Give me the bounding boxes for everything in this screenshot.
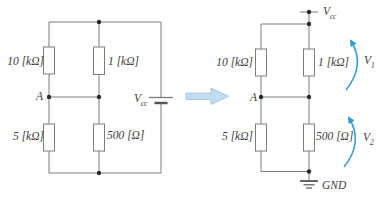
resistor-body <box>44 47 55 74</box>
resistor-body <box>94 47 105 75</box>
left-r-bottom-left-label: 5 [kΩ] <box>13 130 44 143</box>
left-vcc-label: Vcc <box>134 92 147 107</box>
gnd-label: GND <box>322 179 346 192</box>
v2-main: V <box>363 131 370 143</box>
ground-icon <box>300 181 318 188</box>
resistor-body <box>304 124 315 151</box>
left-r-bottom-mid-label: 500 [Ω] <box>107 129 144 142</box>
right-r-top-left-label: 10 [kΩ] <box>216 56 253 69</box>
v2-sub: 2 <box>370 138 373 147</box>
left-r-top-mid-label: 1 [kΩ] <box>108 55 139 68</box>
circuit-figure: 10 [kΩ] 1 [kΩ] 5 [kΩ] 500 [Ω] A Vcc 10 [… <box>0 0 380 200</box>
right-vcc-main: V <box>323 5 330 17</box>
right-circuit-diagram <box>256 10 358 188</box>
v2-label: V2 <box>363 131 373 146</box>
resistor-body <box>256 49 267 76</box>
right-node-a-label: A <box>250 91 257 104</box>
resistor-body <box>44 124 55 151</box>
resistor-body <box>256 124 267 151</box>
left-vcc-main: V <box>134 92 141 104</box>
v1-main: V <box>364 54 371 66</box>
left-node-a-label: A <box>36 90 43 103</box>
left-r-top-left-label: 10 [kΩ] <box>7 55 44 68</box>
right-r-top-right-label: 1 [kΩ] <box>318 56 349 69</box>
transform-arrow-icon <box>186 88 229 104</box>
battery-icon <box>149 98 173 104</box>
right-vcc-sub: cc <box>330 12 336 21</box>
v1-label: V1 <box>364 54 374 69</box>
circuit-drawing <box>0 0 380 200</box>
left-circuit-diagram <box>44 20 174 175</box>
right-r-bottom-left-label: 5 [kΩ] <box>222 130 253 143</box>
left-vcc-sub: cc <box>141 99 147 108</box>
right-r-bottom-right-label: 500 [Ω] <box>316 130 353 143</box>
resistor-body <box>304 49 315 76</box>
right-vcc-label: Vcc <box>323 5 336 20</box>
resistor-body <box>94 124 105 151</box>
v1-sub: 1 <box>371 61 374 70</box>
